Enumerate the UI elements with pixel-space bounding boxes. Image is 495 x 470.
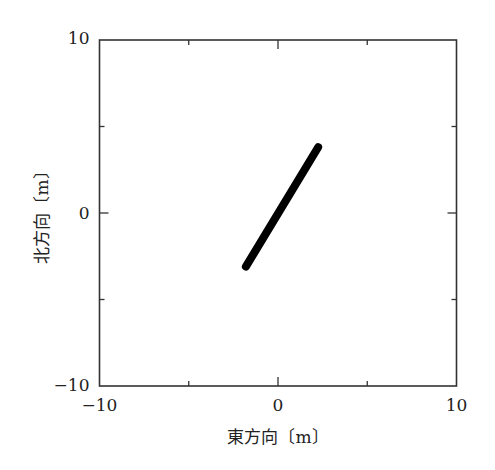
y-tick-label: 10 <box>68 28 90 48</box>
x-tick-label: 0 <box>273 395 284 415</box>
x-axis-label: 東方向〔m〕 <box>227 427 328 447</box>
chart: −10010 −10010 東方向〔m〕 北方向〔m〕 <box>0 0 495 470</box>
y-tick-labels: −10010 <box>54 28 90 395</box>
y-tick-label: −10 <box>54 375 90 395</box>
x-tick-label: 10 <box>446 395 468 415</box>
series-line-trajectory <box>246 147 318 266</box>
x-tick-label: −10 <box>82 395 118 415</box>
y-tick-label: 0 <box>79 203 90 223</box>
series-layer <box>246 147 318 266</box>
x-tick-labels: −10010 <box>82 395 468 415</box>
y-axis-label: 北方向〔m〕 <box>32 162 52 263</box>
